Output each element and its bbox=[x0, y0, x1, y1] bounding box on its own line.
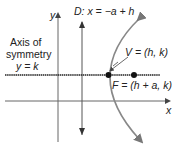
focus-label: F = (h + a, k) bbox=[112, 79, 172, 91]
axis-of-symmetry-label-1: Axis of bbox=[10, 36, 42, 48]
axis-of-symmetry-label-2: symmetry bbox=[6, 48, 52, 60]
axis-of-symmetry-equation: y = k bbox=[15, 60, 39, 72]
y-axis-label: y bbox=[49, 9, 56, 21]
vertex-point bbox=[106, 72, 112, 78]
directrix-arrow-up-icon bbox=[79, 21, 85, 28]
directrix-arrow-down-icon bbox=[79, 128, 85, 135]
x-axis-label: x bbox=[165, 104, 172, 116]
parabola-diagram: y x D: x = −a + h Axis of symmetry y = k… bbox=[0, 0, 177, 150]
directrix-label: D: x = −a + h bbox=[74, 5, 135, 17]
vertex-label: V = (h, k) bbox=[125, 46, 168, 58]
focus-point bbox=[131, 72, 137, 78]
